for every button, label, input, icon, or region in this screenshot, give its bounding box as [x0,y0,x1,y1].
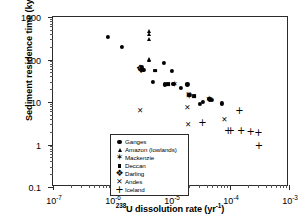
marker-x-icon: ✕ [185,121,191,129]
marker-plus-icon: + [255,141,263,151]
marker-plus-icon: + [254,128,262,138]
x-tick: 10-7 [53,185,54,190]
marker-triangle-icon [147,32,151,36]
x-tick-minor [207,185,208,188]
marker-square-icon [153,69,157,73]
marker-x-icon: ✕ [137,107,143,115]
legend-label: Ganges [125,138,146,146]
x-tick-minor [276,185,277,188]
legend-label: Andes [125,178,142,186]
y-tick-label: 1000 [21,13,41,23]
x-tick-minor [227,185,228,188]
x-tick-minor [81,185,82,188]
x-tick-minor [283,185,284,188]
legend-item-deccan[interactable]: Deccan [114,162,186,170]
legend-item-amazon-lowlands[interactable]: Amazon (lowlands) [114,146,186,154]
legend-label: Amazon (lowlands) [125,146,177,154]
legend-item-darling[interactable]: ❖Darling [114,170,186,178]
legend-label: Darling [125,170,144,178]
x-tick-minor [271,185,272,188]
y-tick-label: 100 [26,56,41,66]
marker-star-icon: ✶ [206,95,214,104]
x-tick-minor [280,185,281,188]
marker-x-icon: ✕ [184,104,190,112]
marker-plus-icon: + [237,126,245,136]
x-tick-minor [248,185,249,188]
x-tick-minor [217,185,218,188]
x-tick-minor [106,185,107,188]
y-tick-label: 10 [31,98,41,108]
marker-cross-filled-icon: ❖ [137,65,145,74]
marker-circle-icon [119,45,123,49]
legend: GangesAmazon (lowlands)✶MackenzieDeccan❖… [110,134,189,196]
marker-x-icon: ✕ [186,91,192,99]
marker-x-icon: ✕ [221,117,227,125]
x-tick-minor [71,185,72,188]
marker-circle-icon [151,80,155,84]
marker-star-icon: ✶ [116,153,124,162]
x-tick-label: 10-3 [282,194,298,206]
legend-marker [114,138,125,146]
marker-circle-icon [162,61,166,65]
legend-label: Deccan [125,162,146,170]
legend-label: Mackenzie [125,154,154,162]
plot-frame: 10001001010.110-710-610-510-410-3 ✶✶✶✶✶❖… [52,16,288,186]
x-tick-minor [103,185,104,188]
legend-item-iceland[interactable]: +Iceland [114,186,186,194]
figure-scatter-plot: Sediment residence time (kyr) 238U disso… [0,0,308,223]
x-tick-minor [94,185,95,188]
marker-square-icon [118,164,122,168]
x-tick-minor [199,185,200,188]
x-tick-minor [286,185,287,188]
x-tick-minor [212,185,213,188]
legend-label: Iceland [125,186,145,194]
marker-circle-icon [106,35,110,39]
x-tick-minor [224,185,225,188]
marker-plus-icon: + [198,118,206,128]
legend-item-ganges[interactable]: Ganges [114,138,186,146]
y-tick-label: 0.1 [28,183,41,193]
marker-circle-icon [178,86,182,90]
x-tick-label: 10-7 [46,194,62,206]
y-tick-label: 1 [36,141,41,151]
x-tick-minor [221,185,222,188]
marker-star-icon: ✶ [171,79,179,88]
marker-triangle-icon [147,58,151,62]
marker-square-icon [192,95,196,99]
x-tick-label: 10-4 [223,194,239,206]
marker-circle-icon [170,68,174,72]
marker-triangle-icon [118,148,122,152]
x-tick: 10-3 [289,185,290,190]
marker-circle-icon [185,82,189,86]
legend-item-mackenzie[interactable]: ✶Mackenzie [114,154,186,162]
marker-circle-icon [117,140,121,144]
legend-item-andes[interactable]: ✕Andes [114,178,186,186]
x-tick-minor [258,185,259,188]
marker-plus-icon: + [227,126,235,136]
x-tick-minor [99,185,100,188]
legend-marker: ✶ [114,154,125,162]
marker-plus-icon: + [115,185,123,195]
marker-triangle-icon [147,37,151,41]
marker-circle-icon [219,101,223,105]
marker-square-icon [166,82,170,86]
x-tick-minor [89,185,90,188]
legend-marker: + [114,186,125,194]
x-tick-minor [266,185,267,188]
marker-plus-icon: + [235,106,243,116]
x-tick: 10-4 [230,185,231,190]
